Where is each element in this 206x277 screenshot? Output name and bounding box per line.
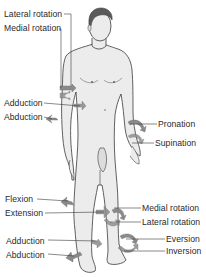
label-foot-eversion: Eversion (166, 234, 200, 244)
knee-flexion-arrow (61, 197, 74, 207)
label-knee-extension: Extension (5, 208, 43, 218)
label-ankle-abduction: Abduction (6, 250, 45, 260)
label-foot-inversion: Inversion (166, 246, 201, 256)
label-shoulder-medial-rotation: Medial rotation (4, 23, 61, 33)
label-forearm-pronation: Pronation (158, 119, 195, 129)
label-forearm-supination: Supination (155, 138, 196, 148)
label-shoulder-lateral-rotation: Lateral rotation (4, 9, 62, 19)
ankle-adduction-arrow (91, 239, 102, 248)
label-ankle-adduction: Adduction (6, 236, 45, 246)
label-hip-adduction: Adduction (4, 98, 43, 108)
label-leg-lateral-rotation: Lateral rotation (142, 217, 200, 227)
label-knee-flexion: Flexion (5, 194, 33, 204)
label-hip-abduction: Abduction (4, 112, 43, 122)
label-leg-medial-rotation: Medial rotation (142, 203, 199, 213)
body-movements-diagram: Lateral rotation Medial rotation Adducti… (0, 0, 206, 277)
